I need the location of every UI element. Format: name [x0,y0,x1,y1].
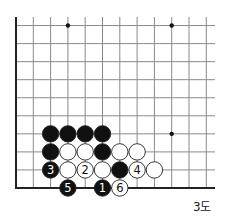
move-number: 3 [47,163,54,177]
move-number: 6 [116,181,123,195]
move-number: 1 [99,181,106,195]
white-stone [60,162,76,178]
black-stone [42,144,58,160]
star-point [66,23,70,27]
black-stone: 3 [42,162,58,178]
white-stone [129,144,145,160]
diagram-caption: 3도 [193,197,211,214]
move-number: 4 [133,163,140,177]
black-stone: 5 [60,180,76,196]
star-point [170,132,174,136]
white-stone [60,144,76,160]
white-stone [112,144,128,160]
star-point [170,23,174,27]
white-stone [77,144,93,160]
go-board: 324516 [0,0,231,221]
black-stone [112,162,128,178]
white-stone [146,162,162,178]
move-number: 2 [82,163,89,177]
white-stone: 4 [129,162,145,178]
move-number: 5 [64,181,71,195]
black-stone [60,126,76,142]
black-stone [94,144,110,160]
white-stone: 6 [112,180,128,196]
white-stone: 2 [77,162,93,178]
black-stone [94,126,110,142]
black-stone: 1 [94,180,110,196]
white-stone [94,162,110,178]
black-stone [42,126,58,142]
black-stone [77,126,93,142]
